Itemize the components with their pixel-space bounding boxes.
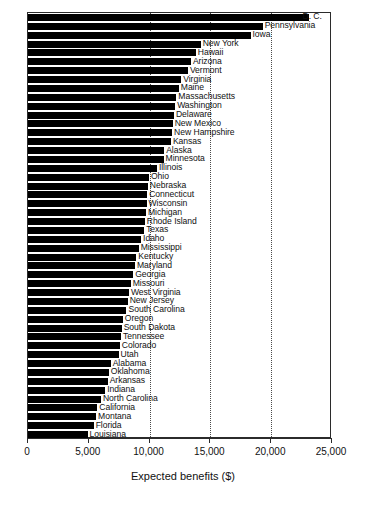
bar[interactable] [28, 245, 139, 252]
bar[interactable] [28, 85, 179, 92]
bar-row[interactable]: West Virginia [28, 288, 330, 297]
bar-category-label: Iowa [253, 30, 271, 39]
bar[interactable] [28, 289, 129, 296]
bar-row[interactable]: Iowa [28, 31, 330, 40]
bar-row[interactable]: Vermont [28, 66, 330, 75]
bar[interactable] [28, 254, 136, 261]
bar-row[interactable]: Illinois [28, 164, 330, 173]
x-tick [88, 438, 89, 443]
bar[interactable] [28, 129, 172, 136]
bar-row[interactable]: Pennsylvania [28, 22, 330, 31]
bar[interactable] [28, 227, 144, 234]
bar[interactable] [28, 112, 174, 119]
x-axis-line [27, 438, 331, 439]
bar[interactable] [28, 209, 146, 216]
bar-row[interactable]: Utah [28, 350, 330, 359]
bar-row[interactable]: Maryland [28, 262, 330, 271]
bar[interactable] [28, 396, 101, 403]
bar-row[interactable]: South Carolina [28, 306, 330, 315]
x-tick [270, 438, 271, 443]
bar[interactable] [28, 298, 128, 305]
x-tick-label: 15,000 [194, 446, 225, 458]
bar[interactable] [28, 23, 263, 30]
bar[interactable] [28, 103, 175, 110]
bar-row[interactable]: Kentucky [28, 253, 330, 262]
x-tick [27, 438, 28, 443]
bar[interactable] [28, 156, 164, 163]
bar-row[interactable]: Colorado [28, 341, 330, 350]
bar-row[interactable]: Indiana [28, 386, 330, 395]
bar[interactable] [28, 378, 108, 385]
bar[interactable] [28, 218, 145, 225]
bar-series: D. C.PennsylvaniaIowaNew YorkHawaiiArizo… [28, 13, 330, 437]
bar-row[interactable]: Oklahoma [28, 368, 330, 377]
bar[interactable] [28, 333, 121, 340]
bar-row[interactable]: Florida [28, 421, 330, 430]
x-tick [209, 438, 210, 443]
bar[interactable] [28, 138, 171, 145]
bar[interactable] [28, 422, 94, 429]
bar[interactable] [28, 369, 109, 376]
bar[interactable] [28, 165, 157, 172]
bar-row[interactable]: Virginia [28, 75, 330, 84]
x-tick-label: 25,000 [316, 446, 347, 458]
bar-row[interactable]: Alabama [28, 359, 330, 368]
bar-row[interactable]: Texas [28, 226, 330, 235]
bar[interactable] [28, 49, 196, 56]
bar[interactable] [28, 191, 147, 198]
x-tick-label: 0 [24, 446, 30, 458]
bar[interactable] [28, 271, 133, 278]
x-tick [331, 438, 332, 443]
bar[interactable] [28, 236, 141, 243]
bar[interactable] [28, 325, 122, 332]
bar[interactable] [28, 280, 131, 287]
bar-row[interactable]: Montana [28, 412, 330, 421]
chart-figure: D. C.PennsylvaniaIowaNew YorkHawaiiArizo… [0, 0, 366, 508]
bar-row[interactable]: New York [28, 40, 330, 49]
x-tick-label: 20,000 [255, 446, 286, 458]
bar[interactable] [28, 94, 176, 101]
bar[interactable] [28, 58, 191, 65]
bar-row[interactable]: Mississippi [28, 244, 330, 253]
bar[interactable] [28, 183, 148, 190]
bar[interactable] [28, 174, 149, 181]
bar[interactable] [28, 120, 173, 127]
x-axis-title: Expected benefits ($) [0, 470, 366, 482]
bar[interactable] [28, 262, 135, 269]
bar-row[interactable]: Rhode Island [28, 217, 330, 226]
bar[interactable] [28, 387, 105, 394]
bar-row[interactable]: Arizona [28, 57, 330, 66]
bar-row[interactable]: Tennessee [28, 333, 330, 342]
bar[interactable] [28, 76, 181, 83]
bar[interactable] [28, 41, 201, 48]
bar[interactable] [28, 307, 126, 314]
bar[interactable] [28, 413, 96, 420]
x-tick-label: 10,000 [133, 446, 164, 458]
bar-row[interactable]: Georgia [28, 270, 330, 279]
bar-row[interactable]: Hawaii [28, 49, 330, 58]
bar-row[interactable]: South Dakota [28, 324, 330, 333]
bar-row[interactable]: Arkansas [28, 377, 330, 386]
bar-category-label: Pennsylvania [265, 21, 316, 30]
bar[interactable] [28, 147, 164, 154]
x-tick [149, 438, 150, 443]
bar-row[interactable]: Oregon [28, 315, 330, 324]
bar[interactable] [28, 360, 111, 367]
x-tick-label: 5,000 [75, 446, 100, 458]
bar-row[interactable]: North Carolina [28, 395, 330, 404]
bar-row[interactable]: California [28, 404, 330, 413]
bar[interactable] [28, 200, 147, 207]
bar[interactable] [28, 404, 97, 411]
x-axis: 05,00010,00015,00020,00025,000 [27, 438, 331, 439]
plot-area: D. C.PennsylvaniaIowaNew YorkHawaiiArizo… [27, 12, 331, 438]
bar[interactable] [28, 351, 119, 358]
bar[interactable] [28, 316, 123, 323]
bar[interactable] [28, 67, 188, 74]
bar[interactable] [28, 342, 120, 349]
